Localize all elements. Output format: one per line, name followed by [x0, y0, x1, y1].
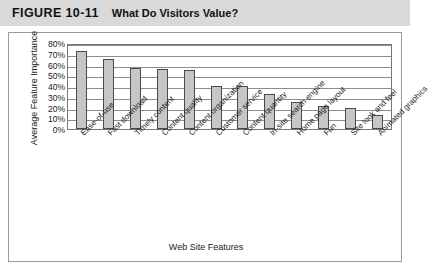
- figure-caption: What Do Visitors Value?: [112, 7, 238, 19]
- y-axis-tick-label: 40%: [48, 83, 65, 92]
- y-axis-tick-label: 30%: [48, 94, 65, 103]
- figure-number: FIGURE 10-11: [12, 6, 99, 20]
- y-axis-tick-label: 60%: [48, 61, 65, 70]
- bar: [76, 51, 87, 129]
- y-axis-tick-label: 80%: [48, 40, 65, 49]
- y-axis-title: Average Feature Importance: [29, 13, 39, 163]
- chart-frame: Average Feature Importance 80%70%60%50%4…: [8, 32, 402, 262]
- bar: [103, 59, 114, 129]
- y-axis-tick-label: 0%: [53, 126, 65, 135]
- y-axis-tick-label: 10%: [48, 115, 65, 124]
- y-axis-tick-labels: 80%70%60%50%40%30%20%10%0%: [39, 44, 65, 130]
- x-axis-title: Web Site Features: [9, 242, 403, 252]
- y-axis-tick-label: 20%: [48, 104, 65, 113]
- y-axis-tick-label: 50%: [48, 72, 65, 81]
- figure-header: FIGURE 10-11 What Do Visitors Value?: [0, 0, 410, 26]
- x-axis-tick-labels: Ease-of-useFast downloadTimely contentCo…: [67, 131, 392, 231]
- bar-slot: [68, 45, 95, 129]
- y-axis-tick-label: 70%: [48, 51, 65, 60]
